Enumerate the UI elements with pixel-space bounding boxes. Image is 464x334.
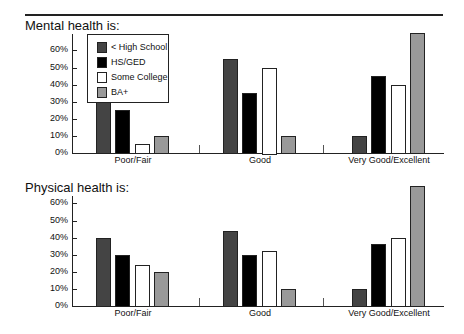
bar: [371, 244, 386, 307]
y-tick: [72, 289, 77, 290]
bar: [410, 33, 425, 154]
y-tick: [72, 68, 77, 69]
y-tick: [72, 272, 77, 273]
category-label: Very Good/Excellent: [329, 308, 449, 318]
bar: [115, 110, 130, 154]
y-tick: [72, 119, 77, 120]
bar: [352, 289, 367, 307]
chart-title: Physical health is:: [25, 180, 129, 195]
legend-label: < High School: [111, 42, 167, 52]
category-label: Poor/Fair: [73, 155, 193, 165]
bar: [135, 144, 150, 154]
category-label: Poor/Fair: [73, 308, 193, 318]
y-tick-label: 50%: [44, 62, 68, 72]
y-tick-label: 60%: [44, 44, 68, 54]
bar: [154, 136, 169, 154]
bar: [371, 76, 386, 154]
y-tick-label: 50%: [44, 215, 68, 225]
legend-label: Some College: [111, 72, 168, 82]
top-rule: [25, 14, 443, 16]
bar: [96, 102, 111, 154]
y-tick: [72, 255, 77, 256]
y-tick: [72, 238, 77, 239]
legend-item: < High School: [97, 41, 167, 53]
y-tick-label: 60%: [44, 197, 68, 207]
bar: [115, 255, 130, 307]
y-tick: [72, 221, 77, 222]
category-separator: [323, 298, 324, 306]
y-tick-label: 10%: [44, 283, 68, 293]
y-tick-label: 0%: [44, 300, 68, 310]
category-separator: [199, 145, 200, 153]
legend-item: Some College: [97, 71, 168, 83]
y-tick-label: 20%: [44, 266, 68, 276]
category-separator: [323, 145, 324, 153]
category-label: Very Good/Excellent: [329, 155, 449, 165]
bar: [96, 238, 111, 307]
bar: [154, 272, 169, 307]
y-tick-label: 10%: [44, 130, 68, 140]
y-tick: [72, 85, 77, 86]
legend-swatch: [97, 42, 107, 53]
bar: [242, 255, 257, 307]
bar: [281, 289, 296, 307]
y-tick: [72, 102, 77, 103]
legend-swatch: [97, 57, 107, 68]
y-tick-label: 20%: [44, 113, 68, 123]
legend-label: HS/GED: [111, 57, 146, 67]
y-tick-label: 30%: [44, 249, 68, 259]
y-tick-label: 40%: [44, 79, 68, 89]
bar: [281, 136, 296, 154]
y-tick: [72, 203, 77, 204]
bar: [410, 186, 425, 307]
bar: [391, 238, 406, 307]
legend-label: BA+: [111, 87, 128, 97]
bar: [223, 59, 238, 154]
bar: [135, 265, 150, 307]
bar: [262, 68, 277, 155]
bar: [391, 85, 406, 154]
legend-item: BA+: [97, 86, 128, 98]
bar: [242, 93, 257, 154]
y-tick: [72, 50, 77, 51]
y-tick-label: 0%: [44, 147, 68, 157]
legend-swatch: [97, 72, 107, 83]
bar: [352, 136, 367, 154]
legend-swatch: [97, 87, 107, 98]
category-separator: [199, 298, 200, 306]
legend-item: HS/GED: [97, 56, 146, 68]
bar: [262, 251, 277, 307]
bar: [223, 231, 238, 307]
y-tick-label: 40%: [44, 232, 68, 242]
y-axis: [72, 196, 73, 307]
y-tick: [72, 136, 77, 137]
legend: < High SchoolHS/GEDSome CollegeBA+: [87, 34, 169, 103]
category-label: Good: [200, 155, 320, 165]
y-tick-label: 30%: [44, 96, 68, 106]
chart-title: Mental health is:: [25, 18, 120, 33]
category-label: Good: [200, 308, 320, 318]
